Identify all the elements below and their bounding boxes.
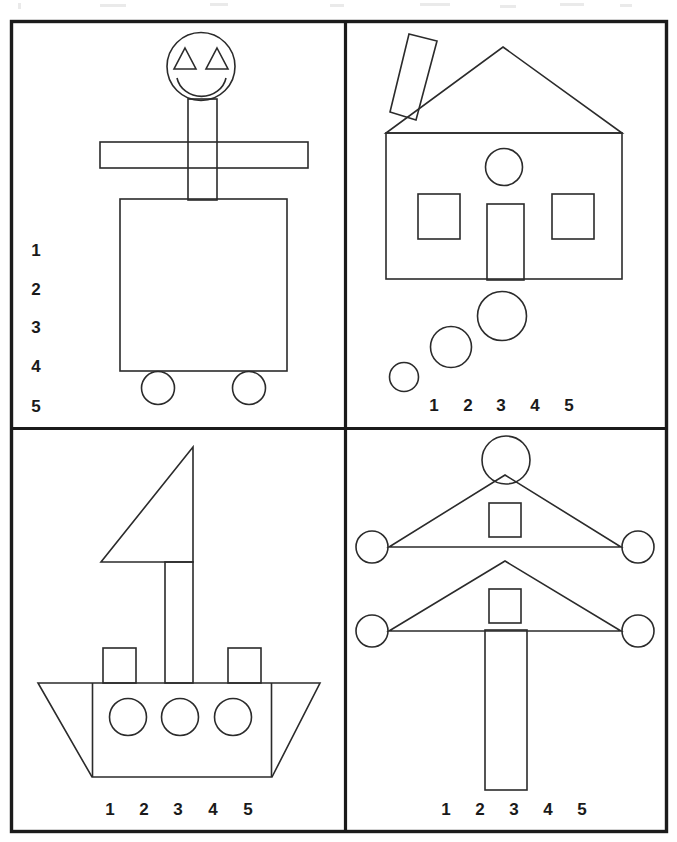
tree-scale-number-5: 5 [577,800,586,819]
porthole-circle-1 [110,699,147,736]
tree-scale-number-3: 3 [509,800,518,819]
head-circle [167,33,235,101]
panel-robot-figure[interactable]: 1 2 3 4 5 [31,33,308,417]
lower-left-circle [356,615,388,647]
boat-scale-number-4: 4 [208,800,218,819]
lower-right-circle [622,615,654,647]
medium-circle [431,327,472,368]
porthole-circle-3 [215,699,252,736]
panel-house-figure[interactable]: 1 2 3 4 5 [386,34,622,415]
robot-scale-number-3: 3 [31,318,40,337]
tree-scale-numbers: 1 2 3 4 5 [441,800,586,819]
panel-frame [12,22,667,832]
trunk-rectangle [485,630,527,790]
sail-triangle [101,447,193,562]
left-cabin-square [103,648,136,683]
house-scale-number-2: 2 [463,396,472,415]
upper-square [489,503,521,537]
upper-left-circle [356,531,388,563]
tree-scale-number-2: 2 [475,800,484,819]
robot-scale-number-5: 5 [31,397,40,416]
house-scale-number-4: 4 [530,396,540,415]
small-circle [390,363,419,392]
arms-rectangle [100,142,308,168]
door-rectangle [487,204,524,280]
boat-scale-number-3: 3 [173,800,182,819]
robot-scale-number-2: 2 [31,280,40,299]
body-rectangle [120,199,287,371]
house-scale-number-3: 3 [496,396,505,415]
smile-arc [177,78,226,96]
porthole-circle-2 [162,699,199,736]
boat-scale-number-1: 1 [105,800,114,819]
robot-scale-number-4: 4 [31,357,41,376]
house-scale-number-1: 1 [429,396,438,415]
neck-rectangle [188,99,217,200]
lower-triangle [389,561,621,631]
worksheet-page: 1 2 3 4 5 1 2 3 4 5 [0,0,677,842]
panel-tree-figure[interactable]: 1 2 3 4 5 [356,436,654,819]
panel-boat-figure[interactable]: 1 2 3 4 5 [38,447,320,819]
worksheet-canvas: 1 2 3 4 5 1 2 3 4 5 [0,0,677,842]
house-body-rectangle [386,133,622,279]
left-window-square [418,194,460,239]
top-circle [482,436,530,484]
right-eye-triangle [206,48,228,69]
upper-right-circle [622,531,654,563]
right-window-square [552,194,594,239]
tree-scale-number-1: 1 [441,800,450,819]
hull-trapezoid [38,683,320,777]
left-wheel-circle [142,372,175,405]
tree-scale-number-4: 4 [543,800,553,819]
right-wheel-circle [233,372,266,405]
robot-scale-number-1: 1 [31,241,40,260]
mast-rectangle [165,562,193,683]
boat-scale-number-2: 2 [139,800,148,819]
boat-scale-number-5: 5 [243,800,252,819]
lower-square [489,589,521,623]
house-scale-numbers: 1 2 3 4 5 [429,396,573,415]
left-eye-triangle [174,48,196,69]
boat-scale-numbers: 1 2 3 4 5 [105,800,252,819]
right-cabin-square [228,648,261,683]
round-window-circle [486,149,523,186]
scan-artifacts [18,3,632,9]
robot-scale-numbers: 1 2 3 4 5 [31,241,41,416]
large-circle [478,292,527,341]
roof-triangle [386,47,622,133]
chimney-rectangle [390,34,437,120]
house-scale-number-5: 5 [564,396,573,415]
